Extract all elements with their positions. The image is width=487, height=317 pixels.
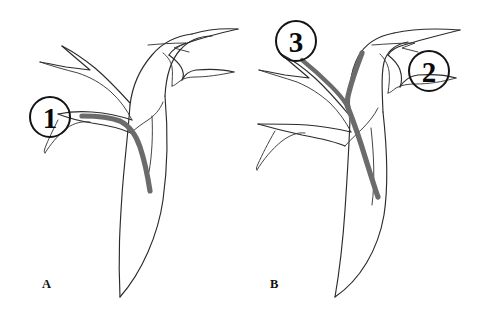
panel-b: 3 2 B: [256, 21, 460, 297]
carina-inner-a: [131, 102, 163, 133]
figure-canvas: 1 A: [0, 0, 487, 317]
panel-letter-a: A: [42, 277, 51, 291]
secondary-branch-stem-a: [163, 53, 172, 86]
panel-a: 1 A: [30, 29, 238, 297]
secondary-branch-upper-b: [388, 55, 402, 87]
superior-branch-upper-a: [192, 29, 238, 34]
secondary-branch-inner-a: [172, 72, 234, 86]
trunk-inner-shadow-a: [149, 116, 152, 172]
panel-letter-b: B: [270, 277, 278, 291]
left-inferior-lower-b: [258, 124, 345, 146]
device-limb-right-b: [347, 53, 362, 107]
callout-3-label: 3: [289, 26, 304, 58]
callout-2[interactable]: 2: [409, 51, 449, 91]
secondary-branch-lower-a: [182, 69, 234, 80]
secondary-branch-upper-a: [169, 55, 183, 80]
callout-3[interactable]: 3: [276, 21, 316, 61]
proximal-right-wall-b: [382, 42, 408, 112]
callout-2-label: 2: [422, 56, 437, 88]
trunk-inner-shadow-b: [371, 128, 374, 205]
trunk-left-wall-a: [119, 105, 130, 297]
callout-1[interactable]: 1: [30, 97, 70, 137]
figure-root: 1 A: [0, 0, 487, 317]
secondary-branch-stem-b: [380, 54, 389, 93]
callout-1-label: 1: [43, 102, 58, 134]
